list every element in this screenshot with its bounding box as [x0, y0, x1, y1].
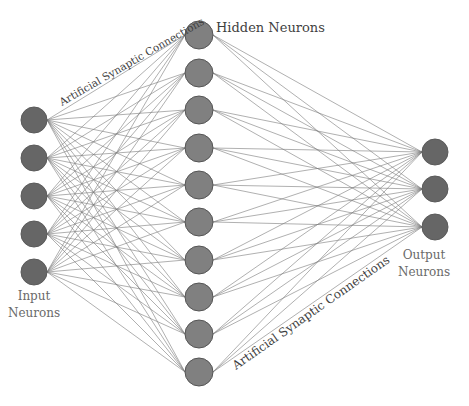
input-neuron-4 — [21, 221, 47, 247]
output-neuron-2 — [422, 176, 448, 202]
input-neurons-label-line1: Input — [18, 289, 51, 303]
synapse-line — [47, 158, 185, 297]
hidden-neuron-9 — [185, 320, 213, 348]
hidden-neuron-3 — [185, 96, 213, 124]
synapse-line — [213, 35, 422, 152]
synapse-line — [47, 120, 185, 222]
synapse-line — [213, 152, 422, 297]
input-neuron-5 — [21, 259, 47, 285]
synapse-line — [47, 185, 185, 272]
output-neurons-label-line1: Output — [403, 248, 446, 262]
connections-label-upper: Artificial Synaptic Connections — [56, 15, 206, 108]
synaptic-connections — [47, 35, 422, 372]
synapse-line — [47, 272, 185, 334]
hidden-neuron-4 — [185, 134, 213, 162]
hidden-neuron-5 — [185, 171, 213, 199]
input-neuron-3 — [21, 183, 47, 209]
synapse-line — [213, 152, 422, 222]
connections-label-lower: Artificial Synaptic Connections — [229, 253, 392, 373]
input-neuron-1 — [21, 107, 47, 133]
neurons — [21, 21, 448, 386]
synapse-line — [47, 196, 185, 334]
hidden-neurons-label: Hidden Neurons — [216, 20, 325, 35]
hidden-neuron-10 — [185, 358, 213, 386]
synapse-line — [47, 234, 185, 334]
hidden-neuron-2 — [185, 59, 213, 87]
synapse-line — [47, 120, 185, 334]
output-neuron-1 — [422, 139, 448, 165]
synapse-line — [47, 158, 185, 334]
input-neuron-2 — [21, 145, 47, 171]
synapse-line — [47, 234, 185, 297]
synapse-line — [213, 148, 422, 152]
synapse-line — [47, 196, 185, 297]
synapse-line — [213, 148, 422, 227]
hidden-neuron-8 — [185, 283, 213, 311]
hidden-neuron-6 — [185, 208, 213, 236]
synapse-line — [47, 110, 185, 120]
synapse-line — [213, 110, 422, 189]
synapse-line — [213, 110, 422, 152]
synapse-line — [213, 73, 422, 152]
synapse-line — [47, 196, 185, 222]
synapse-line — [47, 272, 185, 372]
output-neurons-label-line2: Neurons — [398, 265, 450, 279]
synapse-line — [47, 222, 185, 234]
synapse-line — [213, 35, 422, 189]
output-neuron-3 — [422, 214, 448, 240]
input-neurons-label-line2: Neurons — [8, 306, 60, 320]
hidden-neuron-7 — [185, 246, 213, 274]
neural-network-diagram: Hidden Neurons Input Neurons Output Neur… — [0, 0, 469, 406]
